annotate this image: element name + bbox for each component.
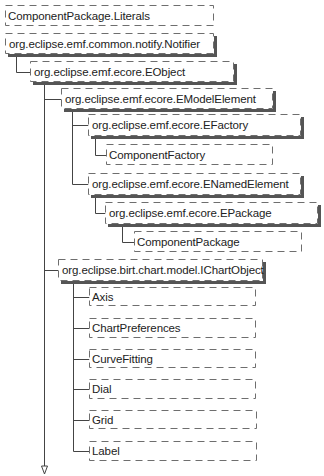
drop-shadow — [8, 54, 217, 57]
drop-shadow — [318, 205, 321, 227]
class-node-label: org.eclipse.emf.ecore.EObject — [34, 61, 185, 82]
class-node-label: Label — [92, 441, 120, 461]
class-node-label: org.eclipse.emf.ecore.EPackage — [109, 202, 272, 224]
class-node-emodelelement[interactable]: org.eclipse.emf.ecore.EModelElement — [61, 88, 277, 113]
drop-shadow — [61, 281, 266, 284]
class-node-label: Grid — [92, 410, 113, 429]
drop-shadow — [214, 36, 217, 57]
class-node-componentfactory[interactable]: ComponentFactory — [106, 144, 277, 169]
dashed-frame — [89, 379, 260, 403]
frame-border — [90, 380, 256, 399]
class-node-eobject[interactable]: org.eclipse.emf.ecore.EObject — [30, 61, 238, 86]
class-node-label: ChartPreferences — [92, 318, 181, 338]
connector-emodelelement — [73, 110, 89, 185]
class-node-label[interactable]: Label — [89, 441, 261, 465]
class-node-grid[interactable]: Grid — [89, 410, 261, 433]
connector-ichartobject — [74, 282, 90, 452]
drop-shadow — [234, 64, 237, 85]
class-hierarchy-diagram: ComponentPackage.Literals org.eclipse.em… — [0, 0, 324, 476]
frame-border — [90, 288, 256, 306]
class-node-literals[interactable]: ComponentPackage.Literals — [5, 5, 218, 30]
drop-shadow — [33, 82, 237, 85]
class-node-label: ComponentPackage.Literals — [8, 5, 150, 26]
class-node-epackage[interactable]: org.eclipse.emf.ecore.EPackage — [105, 202, 322, 228]
dashed-frame — [89, 287, 260, 310]
drop-shadow — [64, 109, 276, 112]
class-node-label: org.eclipse.emf.ecore.EFactory — [92, 114, 248, 136]
arrow-down-icon — [42, 466, 48, 474]
drop-shadow — [273, 91, 276, 112]
class-node-ichartobject[interactable]: org.eclipse.birt.chart.model.IChartObjec… — [58, 259, 267, 285]
class-node-efactory[interactable]: org.eclipse.emf.ecore.EFactory — [88, 114, 305, 140]
class-node-label: Axis — [92, 287, 113, 306]
class-node-label: org.eclipse.emf.common.notify.Notifier — [9, 33, 200, 54]
class-node-componentpackage[interactable]: ComponentPackage — [134, 231, 306, 256]
class-node-notifier[interactable]: org.eclipse.emf.common.notify.Notifier — [5, 33, 218, 58]
class-node-label: org.eclipse.birt.chart.model.IChartObjec… — [62, 259, 264, 281]
drop-shadow — [108, 224, 321, 227]
dashed-frame — [89, 410, 261, 433]
drop-shadow — [91, 136, 304, 139]
class-node-axis[interactable]: Axis — [89, 287, 260, 310]
class-node-curvefitting[interactable]: CurveFitting — [89, 349, 260, 372]
class-node-label: org.eclipse.emf.ecore.ENamedElement — [92, 173, 289, 195]
class-node-dial[interactable]: Dial — [89, 379, 260, 403]
class-node-label: ComponentPackage — [137, 231, 240, 252]
drop-shadow — [301, 117, 304, 139]
class-node-label: Dial — [92, 379, 111, 399]
drop-shadow — [91, 195, 304, 198]
drop-shadow — [301, 176, 304, 198]
class-node-enamedelement[interactable]: org.eclipse.emf.ecore.ENamedElement — [88, 173, 305, 199]
frame-border — [90, 411, 257, 429]
class-node-chartpreferences[interactable]: ChartPreferences — [89, 318, 260, 342]
class-node-label: ComponentFactory — [109, 144, 205, 165]
class-node-label: CurveFitting — [92, 349, 153, 368]
class-node-label: org.eclipse.emf.ecore.EModelElement — [65, 88, 256, 109]
